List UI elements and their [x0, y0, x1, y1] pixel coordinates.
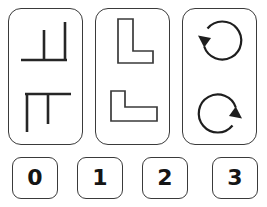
answer-option-2[interactable]: 2 [142, 157, 188, 199]
puzzle-root: 0 1 2 3 [0, 0, 267, 207]
figure-outlined-L-rotated [96, 79, 169, 141]
answer-option-2-label: 2 [157, 167, 172, 189]
stimulus-panel-1[interactable] [95, 8, 170, 145]
figure-thin-line-fork-upright [9, 13, 82, 75]
answer-option-1-label: 1 [92, 167, 107, 189]
stimulus-panel-2[interactable] [182, 8, 257, 145]
answer-option-3-label: 3 [227, 167, 242, 189]
figure-circular-arrow-bottom-right [183, 79, 256, 141]
answer-option-3[interactable]: 3 [212, 157, 258, 199]
answer-option-0-label: 0 [27, 167, 42, 189]
figure-thin-line-fork-inverted [9, 79, 82, 141]
answer-option-0[interactable]: 0 [12, 157, 58, 199]
figure-circular-arrow-top-left [183, 13, 256, 75]
answer-option-1[interactable]: 1 [77, 157, 123, 199]
stimulus-panel-0[interactable] [8, 8, 83, 145]
figure-outlined-L-upright [96, 13, 169, 75]
